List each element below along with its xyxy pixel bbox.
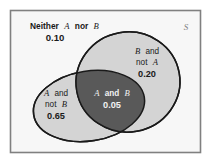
svg-text:A and B: A and B [93,88,130,98]
svg-text:B and: B and [135,46,160,56]
venn-diagram-figure: S Neither A nor B 0.10 A and not B 0.65 [0,0,212,165]
neither-nor-word: nor [75,21,89,31]
b-not-a-set: B [135,46,141,56]
a-not-b-not-word: not [45,100,57,109]
svg-text:not A: not A [136,57,159,67]
neither-word: Neither [30,21,60,31]
svg-text:A and: A and [43,88,69,98]
a-and-b-set-a: A [93,88,100,98]
svg-text:Neither A nor: Neither A nor B [30,21,100,31]
region-label-b-not-a: B and not A 0.20 [135,46,160,79]
a-not-b-set: A [43,88,50,98]
a-and-b-value: 0.05 [103,100,121,110]
neither-value: 0.10 [46,32,65,43]
a-not-b-value: 0.65 [47,111,65,121]
region-label-a-not-b: A and not B 0.65 [43,88,69,121]
b-not-a-and-word: and [145,47,159,56]
a-and-b-and-word: and [105,89,120,98]
a-not-b-and-word: and [54,89,68,98]
universe-label: S [184,22,189,32]
a-and-b-set-b: B [125,88,131,98]
neither-set-a: A [63,21,70,31]
neither-set-b: B [94,21,100,31]
b-not-a-not-word: not [136,58,148,67]
b-not-a-value: 0.20 [138,69,156,79]
svg-text:not B: not B [45,99,68,109]
b-not-a-set-a: A [152,57,159,67]
a-not-b-set-b: B [62,99,68,109]
